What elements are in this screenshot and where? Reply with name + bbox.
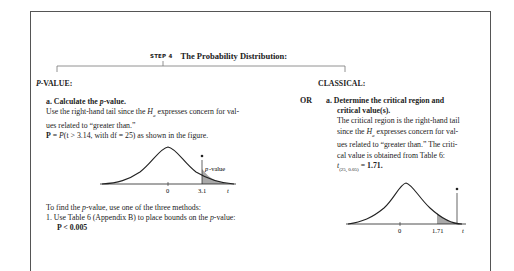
classical-curve	[348, 183, 462, 224]
classical-shaded-region	[437, 213, 462, 224]
classical-tick-value: 1.71	[432, 227, 443, 234]
classical-tick-0: 0	[398, 227, 401, 234]
classical-marker-dot	[456, 188, 459, 191]
classical-axis-label: t	[462, 227, 464, 234]
